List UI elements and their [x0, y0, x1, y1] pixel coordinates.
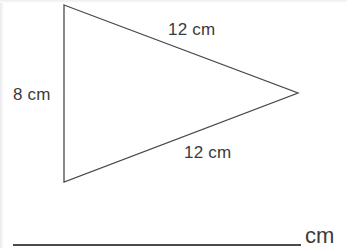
geometry-worksheet-figure: 8 cm 12 cm 12 cm cm: [0, 0, 347, 248]
answer-row: cm: [0, 224, 347, 248]
answer-blank-line[interactable]: [13, 244, 301, 246]
side-label-top: 12 cm: [168, 21, 215, 38]
side-label-bottom: 12 cm: [184, 144, 231, 161]
answer-unit-label: cm: [305, 224, 334, 248]
side-label-left: 8 cm: [13, 86, 51, 103]
